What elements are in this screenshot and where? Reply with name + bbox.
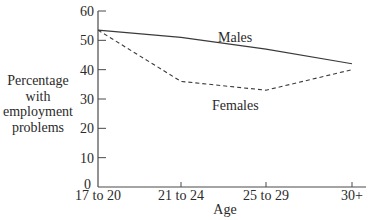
x-tick-label: 21 to 24 [158, 188, 204, 203]
x-axis-ticks: 17 to 2021 to 2425 to 2930+ [75, 182, 363, 203]
x-tick-label: 25 to 29 [243, 188, 289, 203]
x-tick-label: 17 to 20 [75, 188, 121, 203]
y-tick-label: 60 [80, 4, 94, 19]
y-tick-label: 10 [80, 151, 94, 166]
series-labels: Males Females [212, 30, 259, 113]
y-tick-label: 20 [80, 121, 94, 136]
x-tick-label: 30+ [341, 188, 363, 203]
females-label: Females [212, 98, 259, 113]
males-label: Males [218, 30, 252, 45]
y-tick-label: 50 [80, 33, 94, 48]
line-chart: 0102030405060 17 to 2021 to 2425 to 2930… [0, 0, 379, 220]
y-axis-ticks: 0102030405060 [80, 4, 106, 192]
y-tick-label: 30 [80, 92, 94, 107]
x-axis-title: Age [213, 202, 236, 217]
y-tick-label: 40 [80, 63, 94, 78]
